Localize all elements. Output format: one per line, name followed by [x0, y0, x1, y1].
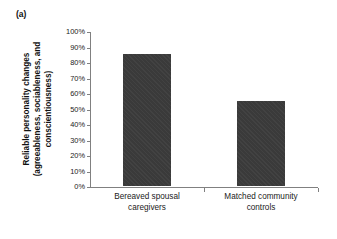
y-axis-tick-mark: [87, 79, 90, 80]
x-axis-category-labels: Bereaved spousalcaregiversMatched commun…: [90, 192, 318, 232]
x-axis-category-label-line: Bereaved spousal: [90, 192, 204, 203]
y-axis-tick-label: 30%: [70, 137, 85, 144]
x-axis-category-label: Bereaved spousalcaregivers: [90, 192, 204, 213]
y-axis-tick-mark: [87, 94, 90, 95]
y-axis-title-line-2: (agreeableness, sociableness, and: [32, 28, 43, 190]
y-axis-tick-label: 20%: [70, 152, 85, 159]
x-axis-category-label-line: controls: [204, 203, 318, 214]
x-axis-tick-mark: [318, 188, 319, 192]
x-axis-category-label-line: caregivers: [90, 203, 204, 214]
y-axis-tick-mark: [87, 32, 90, 33]
bar: [237, 101, 285, 186]
plot-area: [90, 32, 318, 187]
y-axis-tick-label: 10%: [70, 168, 85, 175]
y-axis-tick-label: 80%: [70, 59, 85, 66]
x-axis-category-label-line: Matched community: [204, 192, 318, 203]
y-axis-tick-labels: 0%10%20%30%40%50%60%70%80%90%100%: [56, 32, 88, 187]
y-axis-title: Reliable personality changes (agreeablen…: [16, 28, 60, 190]
bar: [123, 54, 171, 186]
panel-label: (a): [16, 9, 26, 19]
y-axis-tick-mark: [87, 187, 90, 188]
figure-panel-a: (a) Reliable personality changes (agreea…: [0, 0, 337, 239]
y-axis-tick-label: 100%: [66, 28, 85, 35]
y-axis-tick-label: 50%: [70, 106, 85, 113]
y-axis-tick-mark: [87, 172, 90, 173]
y-axis-title-line-1: Reliable personality changes: [21, 28, 32, 190]
y-axis-tick-label: 90%: [70, 44, 85, 51]
y-axis-tick-label: 40%: [70, 121, 85, 128]
y-axis-line: [90, 32, 91, 188]
y-axis-tick-mark: [87, 156, 90, 157]
x-axis-category-label: Matched communitycontrols: [204, 192, 318, 213]
y-axis-tick-label: 0%: [74, 183, 85, 190]
y-axis-tick-mark: [87, 141, 90, 142]
y-axis-tick-mark: [87, 63, 90, 64]
y-axis-tick-mark: [87, 125, 90, 126]
y-axis-tick-mark: [87, 48, 90, 49]
y-axis-tick-mark: [87, 110, 90, 111]
y-axis-tick-label: 60%: [70, 90, 85, 97]
y-axis-title-line-3: conscientiousness): [44, 28, 55, 190]
y-axis-tick-label: 70%: [70, 75, 85, 82]
